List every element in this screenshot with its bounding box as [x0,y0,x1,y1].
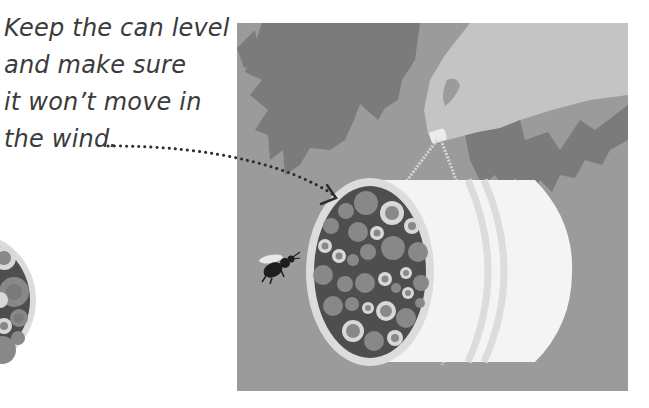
illustration-panel [237,23,628,391]
bee-icon [258,252,300,284]
bee-hotel-illustration [237,23,628,391]
partial-can-illustration [0,0,60,408]
